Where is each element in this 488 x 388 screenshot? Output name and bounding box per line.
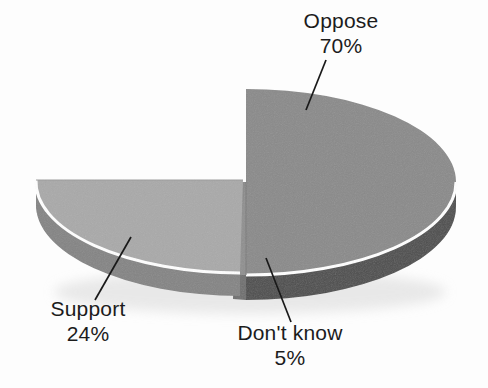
slice-top-support	[36, 180, 243, 273]
slice-label-dontknow: Don't know 5%	[200, 320, 380, 370]
slice-label-oppose: Oppose 70%	[266, 8, 416, 58]
slice-label-dontknow-value: 5%	[200, 345, 380, 370]
slice-label-oppose-name: Oppose	[304, 9, 379, 32]
slice-label-support-name: Support	[51, 297, 126, 320]
slice-label-support-value: 24%	[8, 321, 168, 346]
slice-label-oppose-value: 70%	[266, 33, 416, 58]
slice-label-dontknow-name: Don't know	[237, 321, 342, 344]
slice-label-support: Support 24%	[8, 296, 168, 346]
pie-chart-figure: Oppose 70% Support 24% Don't know 5%	[0, 0, 488, 388]
